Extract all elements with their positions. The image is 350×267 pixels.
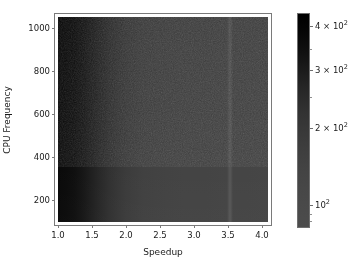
- colorbar-tick-label-exponent: 2: [344, 19, 348, 27]
- colorbar-tick-label-exponent: 2: [326, 198, 330, 206]
- colorbar-tick-mark: [310, 128, 313, 129]
- colorbar-tick-label-mantissa: 10: [315, 200, 326, 210]
- colorbar-tick-mark: [310, 70, 313, 71]
- colorbar-tick-mark: [310, 205, 313, 206]
- x-tick-mark: [58, 225, 59, 228]
- colorbar-tick-label: 4 × 102: [315, 21, 348, 31]
- x-tick-label: 4.0: [255, 230, 269, 240]
- colorbar-tick-label: 2 × 102: [315, 123, 348, 133]
- y-tick-mark: [52, 28, 55, 29]
- colorbar-tick-label-exponent: 2: [344, 63, 348, 71]
- colorbar-tick-label-mantissa: 4 × 10: [315, 21, 344, 31]
- y-axis-label-text: CPU Frequency: [2, 86, 12, 154]
- y-tick-label: 1000: [28, 23, 50, 33]
- heatmap-image: [58, 17, 268, 222]
- colorbar-tick-label-mantissa: 3 × 10: [315, 65, 344, 75]
- figure-canvas: 1.0 1.5 2.0 2.5 3.0 3.5 4.0 200 400 600 …: [0, 0, 350, 267]
- x-axis-label: Speedup: [54, 247, 272, 257]
- y-tick-mark: [52, 157, 55, 158]
- x-tick-label: 3.0: [187, 230, 201, 240]
- y-tick-label: 400: [34, 152, 50, 162]
- y-tick-label: 800: [34, 66, 50, 76]
- colorbar-tick-mark: [310, 26, 313, 27]
- x-tick-label: 2.5: [153, 230, 167, 240]
- colorbar-minor-tick: [310, 49, 312, 50]
- x-tick-label: 2.0: [119, 230, 133, 240]
- x-tick-label: 1.5: [85, 230, 99, 240]
- x-tick-mark: [92, 225, 93, 228]
- colorbar-gradient: [298, 14, 309, 227]
- colorbar-tick-label-mantissa: 2 × 10: [315, 123, 344, 133]
- colorbar-tick-label: 102: [315, 200, 330, 210]
- x-tick-mark: [160, 225, 161, 228]
- x-tick-label: 1.0: [51, 230, 65, 240]
- y-tick-mark: [52, 71, 55, 72]
- colorbar-tick-label: 3 × 102: [315, 65, 348, 75]
- colorbar-minor-tick: [310, 214, 312, 215]
- y-tick-label: 200: [34, 195, 50, 205]
- colorbar: [297, 13, 310, 228]
- colorbar-minor-tick: [310, 221, 312, 222]
- x-tick-mark: [262, 225, 263, 228]
- heatmap-noise-texture-dark: [58, 17, 268, 167]
- colorbar-minor-tick: [310, 97, 312, 98]
- y-tick-mark: [52, 200, 55, 201]
- plot-axes: 1.0 1.5 2.0 2.5 3.0 3.5 4.0 200 400 600 …: [54, 13, 272, 226]
- x-tick-mark: [228, 225, 229, 228]
- y-axis-label: CPU Frequency: [0, 13, 14, 226]
- colorbar-tick-label-exponent: 2: [344, 121, 348, 129]
- x-tick-mark: [194, 225, 195, 228]
- y-tick-mark: [52, 114, 55, 115]
- y-tick-label: 600: [34, 109, 50, 119]
- x-tick-mark: [126, 225, 127, 228]
- x-tick-label: 3.5: [221, 230, 235, 240]
